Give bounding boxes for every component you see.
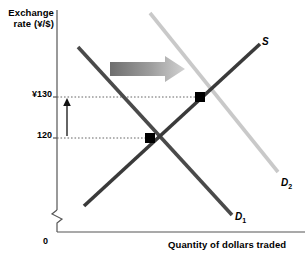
y-tick-label-120: 120 bbox=[6, 130, 52, 140]
y-axis-title: Exchange rate (¥/$) bbox=[4, 8, 54, 30]
demand-curve-d1-label: D1 bbox=[235, 211, 246, 225]
demand-curve-d2-label: D2 bbox=[281, 177, 292, 191]
y-tick-label-130: ¥130 bbox=[6, 89, 52, 99]
equilibrium-marker-new bbox=[195, 92, 205, 102]
y-axis-break-mark bbox=[52, 210, 62, 232]
x-axis-title: Quantity of dollars traded bbox=[168, 240, 286, 251]
equilibrium-marker-initial bbox=[145, 133, 155, 143]
supply-curve-label: S bbox=[262, 36, 269, 48]
demand-curve-d2-label-subscript: 2 bbox=[288, 183, 292, 190]
demand-shift-arrow bbox=[110, 56, 185, 82]
exchange-rate-rise-arrow bbox=[63, 98, 71, 136]
chart-figure: Exchange rate (¥/$) Quantity of dollars … bbox=[0, 0, 308, 258]
demand-curve-d1-label-subscript: 1 bbox=[242, 217, 246, 224]
origin-label: 0 bbox=[43, 236, 48, 246]
